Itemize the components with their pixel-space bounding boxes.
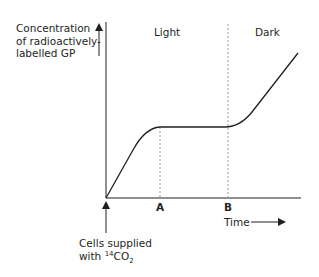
y-label-line-2: of radioactively- bbox=[16, 35, 101, 48]
compound-text: CO bbox=[114, 250, 130, 262]
with-text: with bbox=[79, 250, 105, 262]
marker-a-label: A bbox=[156, 201, 164, 214]
start-annotation-line-1: Cells supplied bbox=[79, 237, 152, 250]
y-label-line-3: labelled GP bbox=[16, 47, 101, 60]
isotope-superscript: 14 bbox=[105, 249, 114, 257]
start-annotation-line-2: with 14CO2 bbox=[79, 250, 152, 263]
gp-concentration-curve bbox=[106, 53, 298, 198]
start-annotation: Cells supplied with 14CO2 bbox=[79, 237, 152, 262]
time-label: Time bbox=[224, 216, 250, 229]
marker-b-label: B bbox=[224, 201, 232, 214]
light-region-label: Light bbox=[154, 26, 180, 39]
compound-subscript: 2 bbox=[129, 257, 133, 265]
y-axis-label: Concentration of radioactively- labelled… bbox=[16, 22, 101, 60]
y-label-line-1: Concentration bbox=[16, 22, 101, 35]
dark-region-label: Dark bbox=[255, 26, 280, 39]
